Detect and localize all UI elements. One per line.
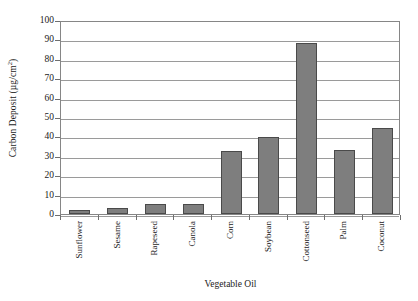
x-axis-category-label-text: Sesame	[112, 221, 121, 249]
y-axis-tick-label: 30	[28, 152, 54, 162]
y-axis-tick-label: 70	[28, 74, 54, 84]
y-axis-tick-label: 0	[28, 210, 54, 220]
y-axis-tick-label: 50	[28, 113, 54, 123]
y-axis-tick-label: 60	[28, 94, 54, 104]
y-axis-title-main: Carbon Deposit (µg/cm	[8, 65, 18, 157]
y-axis-tick-label: 100	[28, 16, 54, 26]
gridline	[61, 61, 399, 62]
gridline	[61, 119, 399, 120]
gridline	[61, 80, 399, 81]
bar-chart-figure: Carbon Deposit (µg/cm2) 0102030405060708…	[0, 0, 418, 301]
y-axis-tick-label: 80	[28, 55, 54, 65]
x-axis-category-label: Rapeseed	[147, 221, 161, 279]
y-axis-tick-label: 10	[28, 191, 54, 201]
x-axis-category-label: Soybean	[261, 221, 275, 279]
x-axis-category-label: Sunflower	[72, 221, 86, 279]
bar	[372, 128, 393, 214]
x-axis-category-label: Canola	[185, 221, 199, 279]
gridline	[61, 138, 399, 139]
x-axis-title: Vegetable Oil	[60, 279, 401, 289]
x-axis-category-label-text: Cottonseed	[301, 221, 310, 262]
x-axis-category-label: Coconut	[374, 221, 388, 279]
plot-area	[60, 21, 400, 215]
bar	[221, 151, 242, 214]
bar	[334, 150, 355, 214]
x-axis-tick	[173, 215, 174, 220]
bar	[145, 204, 166, 214]
x-axis-category-label-text: Rapeseed	[150, 221, 159, 255]
x-axis-category-label-text: Corn	[226, 221, 235, 239]
x-axis-tick	[211, 215, 212, 220]
x-axis-category-label: Palm	[336, 221, 350, 279]
y-axis-title-tail: )	[8, 58, 18, 61]
bar	[183, 204, 204, 214]
x-axis-tick	[362, 215, 363, 220]
gridline	[61, 100, 399, 101]
x-axis-tick-origin	[60, 215, 61, 220]
y-axis-title: Carbon Deposit (µg/cm2)	[0, 0, 26, 215]
x-axis-category-label: Corn	[223, 221, 237, 279]
y-axis-tick-label: 20	[28, 171, 54, 181]
x-axis-category-label: Sesame	[110, 221, 124, 279]
x-axis-category-label: Cottonseed	[299, 221, 313, 279]
bar	[296, 43, 317, 214]
x-axis-category-label-text: Coconut	[377, 221, 386, 252]
x-axis-category-label-text: Palm	[339, 221, 348, 240]
gridline	[61, 41, 399, 42]
x-axis-tick	[400, 215, 401, 220]
y-axis-tick-label: 90	[28, 36, 54, 46]
bar	[107, 208, 128, 214]
x-axis-tick	[287, 215, 288, 220]
x-axis-category-label-text: Soybean	[263, 221, 272, 252]
y-axis-tick-labels: 0102030405060708090100	[28, 0, 54, 301]
y-axis-tick-label: 40	[28, 133, 54, 143]
x-axis-tick	[249, 215, 250, 220]
x-axis-category-label-text: Sunflower	[74, 221, 83, 259]
y-axis-title-text: Carbon Deposit (µg/cm2)	[8, 58, 18, 157]
bar	[69, 210, 90, 214]
x-axis-tick	[324, 215, 325, 220]
x-axis-category-label-text: Canola	[188, 221, 197, 247]
bar	[258, 137, 279, 214]
x-axis-tick	[98, 215, 99, 220]
x-axis-tick	[136, 215, 137, 220]
x-axis-tick-labels: SunflowerSesameRapeseedCanolaCornSoybean…	[60, 221, 401, 279]
